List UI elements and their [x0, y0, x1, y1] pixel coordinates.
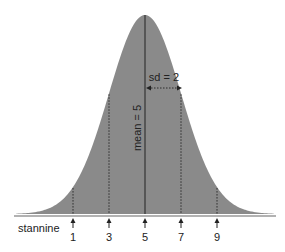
axis-label: stannine [18, 222, 60, 234]
tick-arrow-icon [179, 218, 184, 228]
stanine-ticks: 13579 [70, 218, 220, 243]
tick-label: 5 [142, 231, 148, 243]
tick-label: 3 [106, 231, 112, 243]
normal-curve-diagram: mean = 5 sd = 2 13579 stannine [0, 0, 285, 252]
mean-label: mean = 5 [131, 105, 143, 151]
tick-arrow-icon [107, 218, 112, 228]
tick-label: 7 [178, 231, 184, 243]
tick-arrow-icon [215, 218, 220, 228]
tick-label: 9 [214, 231, 220, 243]
tick-label: 1 [70, 231, 76, 243]
tick-arrow-icon [71, 218, 76, 228]
tick-arrow-icon [143, 218, 148, 228]
sd-label: sd = 2 [149, 71, 179, 83]
